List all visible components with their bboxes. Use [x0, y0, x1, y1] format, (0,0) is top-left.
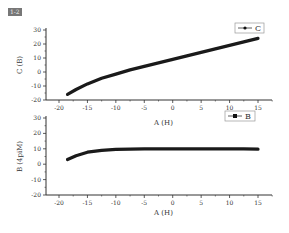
y-tick-label: -10: [31, 176, 41, 183]
y-tick-label: 30: [33, 114, 41, 121]
x-tick-label: 5: [199, 199, 203, 206]
legend-label: C: [255, 24, 261, 33]
y-tick-label: -10: [31, 82, 41, 89]
y-axis-title: B (4piM): [16, 141, 24, 172]
y-tick-label: 10: [33, 54, 41, 61]
legend: B: [225, 111, 255, 121]
x-axis-title: A (H): [153, 119, 173, 127]
y-tick-label: 0: [37, 68, 41, 75]
x-axis-title: A (H): [153, 209, 173, 217]
chart-panel-2: 3020100-10-20-20-15-10-5051015A (H)B (4p…: [16, 111, 272, 217]
x-tick-label: -20: [54, 199, 64, 206]
y-axis-title: C (B): [16, 56, 24, 74]
x-tick-label: -15: [83, 104, 93, 111]
y-tick-label: 0: [37, 160, 41, 167]
x-tick-label: 10: [226, 104, 234, 111]
legend-label: B: [245, 112, 251, 121]
legend-circle-marker-icon: [243, 26, 246, 29]
legend: C: [235, 23, 264, 33]
x-tick-label: 15: [254, 199, 262, 206]
chart-canvas: 3020100-10-20-20-15-10-5051015A (H)C (B)…: [0, 0, 289, 233]
y-tick-label: 30: [33, 26, 41, 33]
y-tick-label: 20: [33, 129, 41, 136]
series-b-line: [68, 149, 258, 160]
y-tick-label: 20: [33, 40, 41, 47]
x-tick-label: 15: [254, 104, 262, 111]
y-tick-label: -20: [31, 191, 41, 198]
y-tick-label: 10: [33, 145, 41, 152]
legend-square-marker-icon: [233, 114, 237, 118]
x-tick-label: -10: [111, 104, 121, 111]
x-tick-label: -15: [83, 199, 93, 206]
x-tick-label: -10: [111, 199, 121, 206]
x-tick-label: -20: [54, 104, 64, 111]
x-tick-label: 0: [171, 104, 175, 111]
series-c-line: [68, 38, 258, 94]
x-tick-label: -5: [141, 104, 147, 111]
x-tick-label: 0: [171, 199, 175, 206]
x-tick-label: -5: [141, 199, 147, 206]
y-tick-label: -20: [31, 96, 41, 103]
x-tick-label: 10: [226, 199, 234, 206]
x-tick-label: 5: [199, 104, 203, 111]
